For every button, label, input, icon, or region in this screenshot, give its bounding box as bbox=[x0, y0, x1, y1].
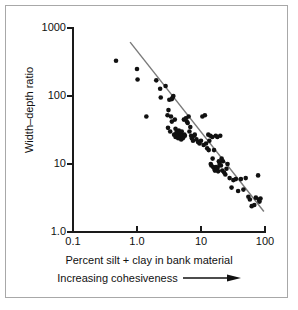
data-point bbox=[225, 162, 230, 167]
data-point bbox=[158, 95, 163, 100]
y-axis-tick-label: 10 bbox=[54, 158, 66, 169]
x-axis-subtitle-row: Increasing cohesiveness bbox=[20, 272, 278, 284]
data-point bbox=[218, 133, 223, 138]
x-axis-title: Percent silt + clay in bank material bbox=[20, 254, 278, 266]
data-point bbox=[229, 185, 234, 190]
data-point bbox=[212, 148, 217, 153]
data-point bbox=[163, 84, 168, 89]
trend-line bbox=[130, 42, 264, 211]
data-point bbox=[114, 58, 119, 63]
data-point bbox=[219, 163, 224, 168]
data-point bbox=[221, 159, 226, 164]
data-point bbox=[169, 114, 174, 119]
data-point bbox=[199, 138, 204, 143]
data-point bbox=[223, 172, 228, 177]
data-point bbox=[256, 173, 261, 178]
right-arrow-icon bbox=[183, 273, 241, 283]
data-point bbox=[188, 125, 193, 130]
figure-container: 1.01010010000.11.010100 Width–depth rati… bbox=[0, 0, 298, 310]
data-point bbox=[234, 177, 239, 182]
data-point bbox=[154, 78, 159, 83]
x-axis-subtitle: Increasing cohesiveness bbox=[57, 272, 177, 284]
data-point bbox=[193, 132, 198, 137]
data-point bbox=[183, 133, 188, 138]
y-axis-tick bbox=[67, 231, 72, 233]
data-point bbox=[252, 203, 257, 208]
data-point bbox=[216, 169, 221, 174]
y-axis-tick-label: 1000 bbox=[42, 22, 66, 33]
data-point bbox=[258, 196, 263, 201]
data-point bbox=[158, 86, 163, 91]
data-point bbox=[135, 67, 140, 72]
data-point bbox=[168, 129, 173, 134]
data-point bbox=[239, 177, 244, 182]
data-point bbox=[236, 189, 241, 194]
y-axis-tick-label: 100 bbox=[48, 90, 66, 101]
data-point bbox=[203, 113, 208, 118]
data-point bbox=[135, 77, 140, 82]
data-point bbox=[144, 114, 149, 119]
y-axis-title: Width–depth ratio bbox=[23, 40, 35, 180]
y-axis-tick bbox=[67, 27, 72, 29]
y-axis-tick bbox=[67, 95, 72, 97]
data-point bbox=[210, 156, 215, 161]
data-point bbox=[248, 197, 253, 202]
y-axis-tick-label: 1.0 bbox=[51, 226, 66, 237]
x-axis-tick-label: 1.0 bbox=[129, 236, 144, 247]
x-axis-tick-label: 10 bbox=[195, 236, 207, 247]
data-point bbox=[186, 114, 191, 119]
data-point bbox=[207, 138, 212, 143]
data-point bbox=[166, 108, 171, 113]
data-point bbox=[243, 176, 248, 181]
data-point bbox=[224, 167, 229, 172]
plot-area bbox=[73, 28, 265, 232]
x-axis-tick-label: 100 bbox=[256, 236, 274, 247]
data-point bbox=[206, 148, 211, 153]
data-points bbox=[114, 58, 263, 208]
data-point bbox=[171, 94, 176, 99]
scatter-plot-canvas bbox=[73, 28, 265, 232]
data-point bbox=[185, 121, 190, 126]
data-point bbox=[173, 117, 178, 122]
y-axis-tick bbox=[67, 163, 72, 165]
x-axis-tick-label: 0.1 bbox=[65, 236, 80, 247]
data-point bbox=[241, 187, 246, 192]
data-point bbox=[187, 129, 192, 134]
regression-line bbox=[130, 42, 264, 211]
